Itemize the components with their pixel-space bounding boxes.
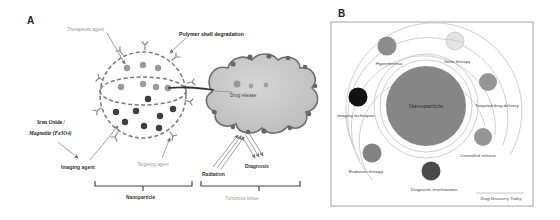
targeting-agent-label: Targeting agent bbox=[137, 162, 169, 167]
svg-text:Radiation therapy: Radiation therapy bbox=[349, 169, 384, 174]
svg-text:Hyperthermia: Hyperthermia bbox=[376, 61, 403, 66]
panel-a-label: A bbox=[27, 15, 34, 26]
therapeutic-agent-label: Therapeutic agent bbox=[67, 27, 105, 32]
svg-text:Targeted drug delivery: Targeted drug delivery bbox=[475, 103, 519, 108]
tumorous-tissue-bracket bbox=[201, 181, 300, 191]
svg-text:Controlled release: Controlled release bbox=[460, 153, 496, 158]
nanoparticle-caption: Nanoparticle bbox=[126, 195, 155, 200]
figure: A Drug release bbox=[0, 0, 560, 220]
svg-text:Diagnostic mechanisms: Diagnostic mechanisms bbox=[411, 187, 458, 192]
drug-release-label: Drug release bbox=[230, 93, 257, 98]
imaging-agent-label: Imaging agent bbox=[61, 164, 95, 170]
iron-oxide-label-line1: Iron Oxide / bbox=[37, 119, 66, 125]
journal-credit: Drug Discovery Today bbox=[480, 196, 522, 201]
tumor-cloud: Drug release bbox=[206, 53, 317, 134]
panel-b: B Nanoparticle Hyperthermia Gene therapy… bbox=[331, 8, 533, 206]
radiation-label: Radiation bbox=[202, 171, 225, 177]
tumorous-tissue-caption: Tumorous tissue bbox=[225, 196, 259, 201]
panel-a: A Drug release bbox=[27, 15, 318, 201]
diagnosis-label: Diagnosis bbox=[245, 163, 269, 169]
nanoparticle-bracket bbox=[95, 181, 192, 191]
svg-text:Gene therapy: Gene therapy bbox=[444, 59, 471, 64]
svg-text:Imaging techniques: Imaging techniques bbox=[337, 113, 376, 118]
panel-b-label: B bbox=[338, 8, 345, 19]
nanoparticle-core-label: Nanoparticle bbox=[409, 102, 444, 109]
iron-oxide-label-line2: Magnetite (Fe3O4) bbox=[28, 130, 72, 137]
polymer-shell-label: Polymer shell degradation bbox=[179, 31, 244, 37]
